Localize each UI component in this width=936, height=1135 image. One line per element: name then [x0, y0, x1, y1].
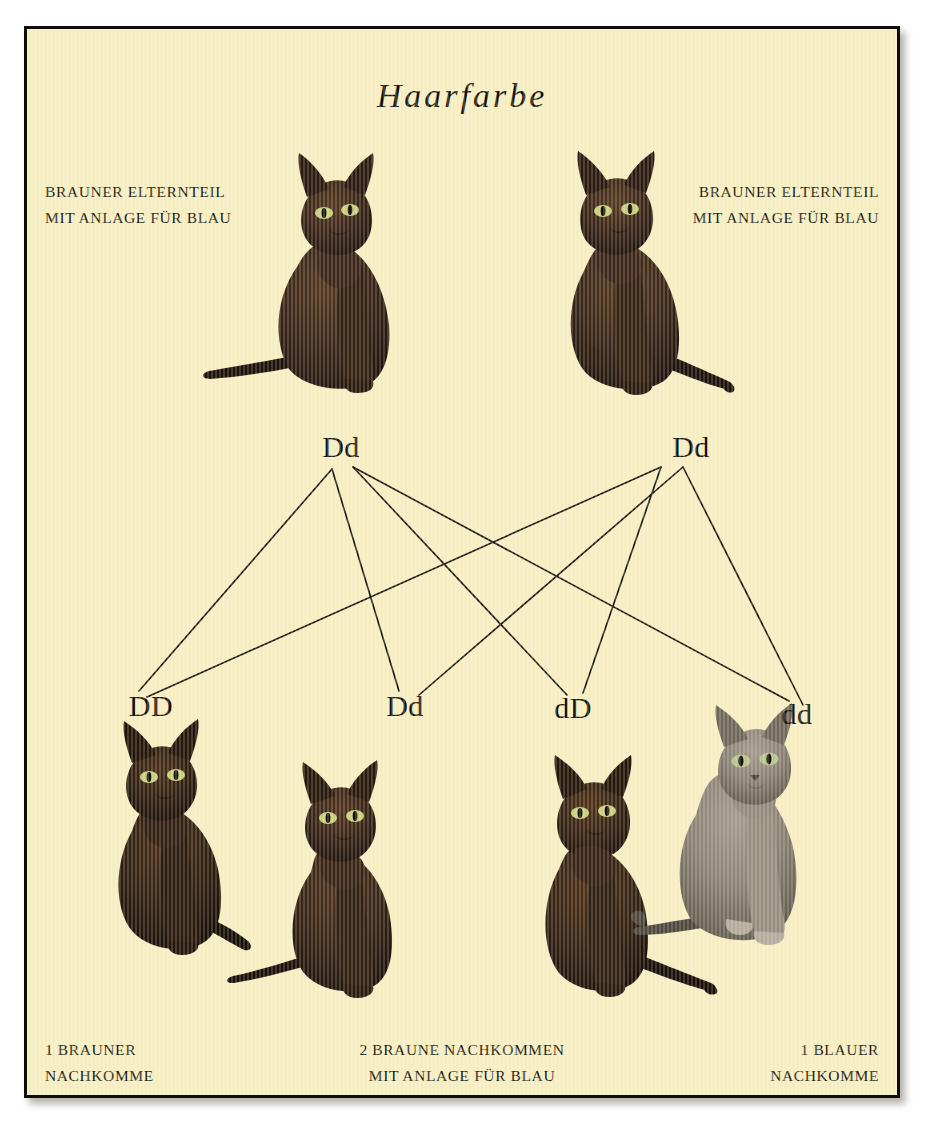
- offspring-4-genotype: dd: [782, 697, 813, 731]
- parent-left-label-line1: BRAUNER ELTERNTEIL: [45, 179, 231, 205]
- genetics-poster: Haarfarbe BRAUNER ELTERNTEIL MIT ANLAGE …: [24, 26, 900, 1098]
- line-parentright-d-to-dd: [683, 467, 803, 705]
- parent-left-label: BRAUNER ELTERNTEIL MIT ANLAGE FÜR BLAU: [45, 179, 231, 231]
- parent-left-cat: [217, 147, 427, 417]
- offspring-2-cat: [227, 764, 442, 1024]
- offspring-middle-caption: 2 BRAUNE NACHKOMMEN MIT ANLAGE FÜR BLAU: [27, 1037, 897, 1089]
- brown-cat-illustration: [227, 764, 442, 1024]
- offspring-2-genotype: Dd: [386, 689, 424, 723]
- page-title: Haarfarbe: [27, 77, 897, 115]
- line-parentleft-d-to-dd: [353, 467, 789, 701]
- parent-right-label-line2: MIT ANLAGE FÜR BLAU: [693, 205, 879, 231]
- line-parentleft-D-to-Dd: [332, 469, 399, 691]
- offspring-right-caption-line2: NACHKOMME: [770, 1063, 879, 1089]
- parent-left-genotype: Dd: [322, 430, 360, 464]
- parent-right-label-line1: BRAUNER ELTERNTEIL: [693, 179, 879, 205]
- offspring-middle-caption-line1: 2 BRAUNE NACHKOMMEN: [27, 1037, 897, 1063]
- parent-left-label-line2: MIT ANLAGE FÜR BLAU: [45, 205, 231, 231]
- offspring-middle-caption-line2: MIT ANLAGE FÜR BLAU: [27, 1063, 897, 1089]
- line-parentleft-d-to-dD: [353, 467, 567, 695]
- line-parentright-D-to-dD: [583, 467, 661, 693]
- line-parentright-D-to-DD: [147, 467, 661, 697]
- offspring-3-genotype: dD: [554, 691, 592, 725]
- blue-cat-illustration: [622, 719, 872, 969]
- offspring-right-caption: 1 BLAUER NACHKOMME: [770, 1037, 879, 1089]
- parent-right-genotype: Dd: [672, 430, 710, 464]
- line-parentleft-D-to-DD: [139, 469, 332, 691]
- offspring-1-genotype: DD: [129, 689, 173, 723]
- offspring-4-cat: [622, 719, 872, 969]
- brown-cat-illustration: [217, 147, 427, 417]
- parent-right-label: BRAUNER ELTERNTEIL MIT ANLAGE FÜR BLAU: [693, 179, 879, 231]
- line-parentright-d-to-Dd: [419, 467, 683, 695]
- offspring-right-caption-line1: 1 BLAUER: [770, 1037, 879, 1063]
